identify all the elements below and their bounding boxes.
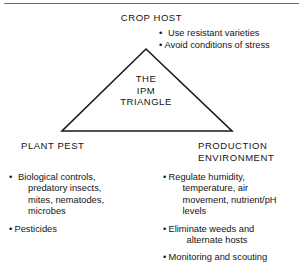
production-environment-bullet-list: • Regulate humidity, temperature, air mo… (163, 172, 303, 270)
bullet-icon: • (163, 252, 166, 263)
list-item-line: Biological controls, (18, 172, 96, 182)
node-title-plant-pest: PLANT PEST (21, 140, 84, 152)
list-item-line: microbes (18, 206, 159, 217)
list-item-line: Monitoring and scouting (169, 252, 268, 262)
list-item-line: temperature, air (169, 183, 304, 194)
bullet-icon: • (159, 28, 162, 39)
center-label: THE IPM TRIANGLE (104, 73, 188, 108)
list-item: • Eliminate weeds and alternate hosts (163, 224, 303, 247)
plant-pest-bullet-list: • Biological controls, predatory insects… (9, 172, 159, 241)
bullet-icon: • (159, 40, 162, 51)
list-item: • Pesticides (9, 224, 159, 235)
bullet-icon: • (9, 172, 12, 183)
list-item-line: Pesticides (15, 224, 57, 234)
list-item: • Monitoring and scouting (163, 252, 303, 263)
list-item-line: movement, nutrient/pH (169, 195, 304, 206)
bullet-icon: • (9, 224, 12, 235)
top-divider-rule (4, 3, 299, 4)
list-item-text: Eliminate weeds and alternate hosts (163, 224, 303, 247)
bullet-icon: • (163, 224, 166, 235)
node-title-production-environment: PRODUCTION ENVIRONMENT (198, 140, 274, 164)
list-item-text: Use resistant varieties (159, 28, 303, 39)
list-item: • Regulate humidity, temperature, air mo… (163, 172, 303, 218)
list-item-line: alternate hosts (169, 235, 304, 246)
list-item-text: Regulate humidity, temperature, air move… (163, 172, 303, 218)
bullet-icon: • (163, 172, 166, 183)
list-item-line: levels (169, 206, 304, 217)
crop-host-bullet-list: • Use resistant varieties • Avoid condit… (159, 28, 303, 53)
list-item: • Avoid conditions of stress (159, 40, 303, 51)
list-item-line: Regulate humidity, (169, 172, 245, 182)
list-item-text: Avoid conditions of stress (159, 40, 303, 51)
node-title-crop-host: CROP HOST (0, 12, 303, 24)
list-item-text: Biological controls, predatory insects, … (9, 172, 159, 218)
list-item: • Use resistant varieties (159, 28, 303, 39)
ipm-triangle-figure: CROP HOST • Use resistant varieties • Av… (0, 0, 303, 277)
list-item-text: Pesticides (9, 224, 159, 235)
list-item-line: predatory insects, (18, 183, 159, 194)
list-item-line: Eliminate weeds and (169, 224, 255, 234)
list-item-text: Monitoring and scouting (163, 252, 303, 263)
list-item: • Biological controls, predatory insects… (9, 172, 159, 218)
list-item-line: mites, nematodes, (18, 195, 159, 206)
